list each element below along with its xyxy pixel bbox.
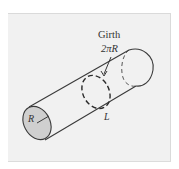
girth-arrow-line [104,57,111,74]
right-end-outline [129,49,153,86]
cylinder-diagram: Girth 2πR R L [0,0,179,169]
cylinder-bottom-edge [45,86,136,140]
right-end-hidden-edge [122,50,136,86]
girth-label: Girth [98,29,121,40]
radius-label: R [27,113,34,124]
girth-formula-label: 2πR [101,43,119,54]
length-label: L [103,111,110,122]
